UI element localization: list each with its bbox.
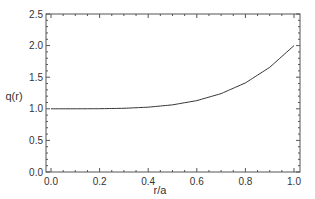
x-tick-label: 1.0 xyxy=(287,176,301,187)
x-tick-label: 0.8 xyxy=(238,176,252,187)
q-profile-curve xyxy=(51,46,294,109)
x-axis-label: r/a xyxy=(154,184,168,196)
y-tick-label: 1.0 xyxy=(29,103,43,114)
y-tick-label: 2.5 xyxy=(29,9,43,20)
x-tick-label: 0.2 xyxy=(93,176,107,187)
line-chart: 0.00.20.40.60.81.0 0.00.51.01.52.02.5 r/… xyxy=(0,0,315,199)
x-tick-label: 0.6 xyxy=(190,176,204,187)
y-tick-label: 0.0 xyxy=(29,167,43,178)
y-axis-label: q(r) xyxy=(5,90,22,102)
y-tick-label: 2.0 xyxy=(29,40,43,51)
y-tick-labels: 0.00.51.01.52.02.5 xyxy=(29,9,43,178)
axis-ticks xyxy=(46,14,300,172)
x-tick-labels: 0.00.20.40.60.81.0 xyxy=(44,176,301,187)
x-tick-label: 0.0 xyxy=(44,176,58,187)
plot-frame xyxy=(46,14,300,172)
y-tick-label: 1.5 xyxy=(29,72,43,83)
y-tick-label: 0.5 xyxy=(29,135,43,146)
